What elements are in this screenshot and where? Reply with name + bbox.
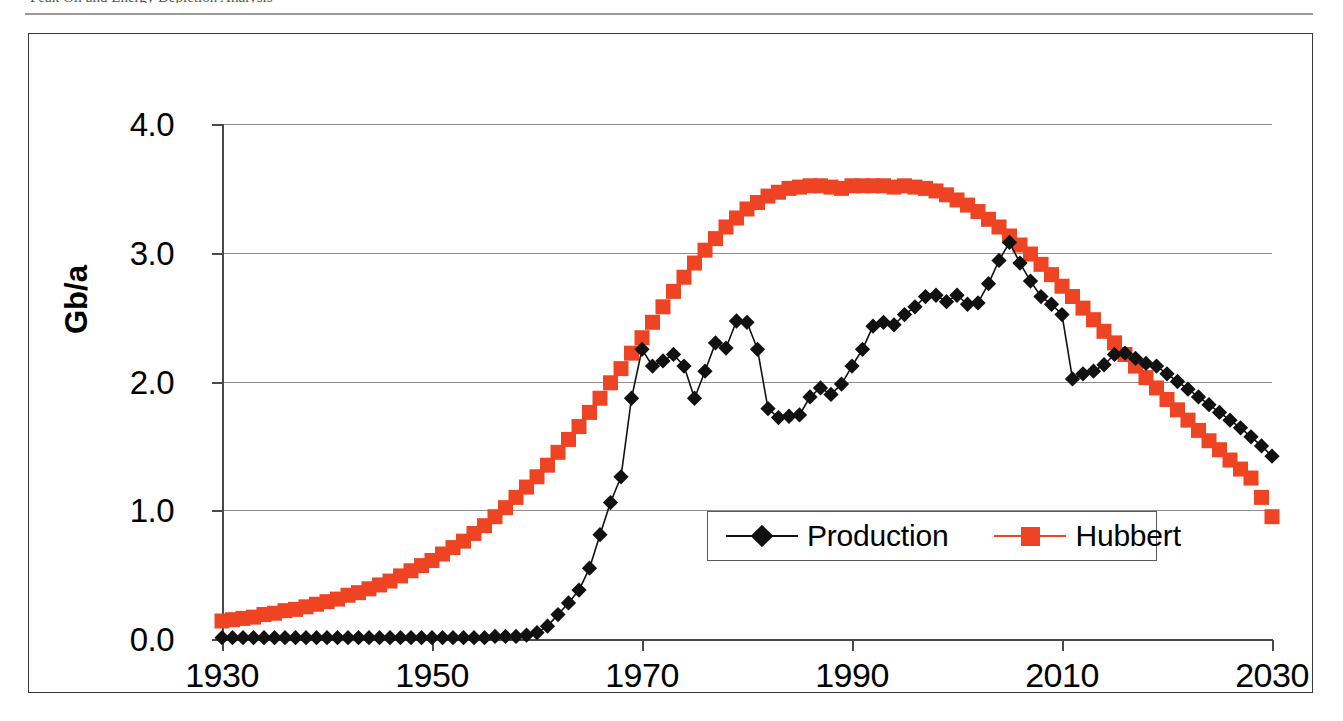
gridline-2 [222,382,1272,383]
top-text-sliver: Peak Oil and Energy Depletion Analysis [30,0,450,3]
x-tick-label-1970: 1970 [567,656,717,695]
gridline-3 [222,253,1272,254]
legend-label-hubbert: Hubbert [1075,519,1180,553]
legend[interactable]: Production Hubbert [707,511,1157,561]
x-tick-label-1930: 1930 [147,656,297,695]
figure-frame: Gb/a 4.0 3.0 2.0 1.0 0.0 1930 1950 1970 … [28,33,1313,693]
y-tick-label-2: 2.0 [84,364,174,402]
legend-item-hubbert[interactable]: Hubbert [994,519,1180,553]
series-production [214,235,1279,646]
y-tick-label-0: 0.0 [84,621,174,659]
x-tick-mark-1930 [222,640,224,651]
x-tick-label-2030: 2030 [1197,656,1343,695]
legend-marker-square-icon [994,525,1066,547]
x-tick-label-2010: 2010 [987,656,1137,695]
y-tick-label-1: 1.0 [84,492,174,530]
x-tick-label-1990: 1990 [777,656,927,695]
x-tick-mark-1950 [432,640,434,651]
legend-label-production: Production [807,519,948,553]
y-tick-label-4: 4.0 [84,106,174,144]
x-tick-mark-1970 [642,640,644,651]
horizontal-rule [25,13,1313,15]
x-tick-mark-1990 [852,640,854,651]
x-tick-label-1950: 1950 [357,656,507,695]
y-axis-title: Gb/a [59,265,95,334]
x-axis-line [222,639,1273,641]
gridline-4 [222,124,1272,125]
legend-marker-diamond-icon [726,525,798,547]
y-axis-line [222,124,224,640]
x-tick-mark-2010 [1062,640,1064,651]
y-tick-label-3: 3.0 [84,235,174,273]
x-tick-mark-2030 [1272,640,1274,651]
legend-item-production[interactable]: Production [726,519,948,553]
